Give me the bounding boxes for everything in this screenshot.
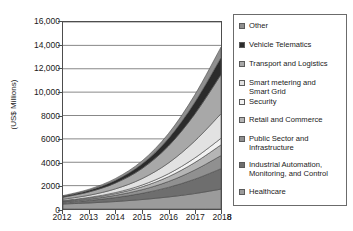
legend-item[interactable]: Industrial Automation, Monitoring, and C…	[239, 160, 343, 178]
chart-legend: OtherVehicle TelematicsTransport and Log…	[233, 14, 347, 206]
y-tick-label: 6000	[12, 135, 60, 144]
x-tick-mark	[142, 210, 143, 214]
page-number: 8	[227, 212, 232, 222]
area-bands	[63, 47, 221, 209]
legend-item-label: Vehicle Telematics	[249, 40, 311, 49]
area-series-group	[63, 22, 221, 209]
y-tick-mark	[58, 163, 62, 164]
y-tick-mark	[58, 186, 62, 187]
x-tick-mark	[89, 210, 90, 214]
chart-figure: (US$ Millions) 0200040006000800010,00012…	[0, 0, 353, 231]
legend-swatch-icon	[239, 23, 245, 29]
legend-swatch-icon	[239, 61, 245, 67]
legend-item-label: Retail and Commerce	[249, 115, 322, 124]
y-tick-label: 4000	[12, 158, 60, 167]
legend-swatch-icon	[239, 117, 245, 123]
legend-item-label: Transport and Logistics	[249, 59, 328, 68]
legend-item[interactable]: Retail and Commerce	[239, 115, 343, 124]
y-tick-label: 2000	[12, 182, 60, 191]
legend-swatch-icon	[239, 99, 245, 105]
y-tick-label: 10,000	[12, 87, 60, 96]
legend-swatch-icon	[239, 42, 245, 48]
y-tick-label: 16,000	[12, 17, 60, 26]
legend-item[interactable]: Other	[239, 21, 343, 30]
y-tick-mark	[58, 92, 62, 93]
y-tick-mark	[58, 139, 62, 140]
legend-swatch-icon	[239, 189, 245, 195]
legend-swatch-icon	[239, 80, 245, 86]
legend-item-label: Other	[249, 21, 268, 30]
legend-swatch-icon	[239, 136, 245, 142]
x-tick-mark	[169, 210, 170, 214]
legend-swatch-icon	[239, 162, 245, 168]
legend-item-label: Smart metering and Smart Grid	[249, 78, 316, 96]
legend-item-label: Security	[249, 97, 276, 106]
y-tick-label: 12,000	[12, 64, 60, 73]
legend-item-label: Healthcare	[249, 187, 286, 196]
y-axis-tick-labels: 0200040006000800010,00012,00014,00016,00…	[12, 15, 60, 215]
plot-area	[62, 21, 222, 210]
y-tick-label: 14,000	[12, 40, 60, 49]
stacked-area-chart: (US$ Millions) 0200040006000800010,00012…	[0, 0, 228, 231]
y-tick-mark	[58, 68, 62, 69]
y-tick-mark	[58, 45, 62, 46]
x-tick-mark	[221, 210, 222, 214]
legend-item[interactable]: Healthcare	[239, 187, 343, 196]
legend-item[interactable]: Vehicle Telematics	[239, 40, 343, 49]
legend-item[interactable]: Smart metering and Smart Grid	[239, 78, 343, 96]
y-tick-mark	[58, 116, 62, 117]
legend-item[interactable]: Transport and Logistics	[239, 59, 343, 68]
x-tick-mark	[115, 210, 116, 214]
legend-item[interactable]: Public Sector and Infrastructure	[239, 134, 343, 152]
x-tick-label: 2018	[207, 212, 237, 222]
y-tick-mark	[58, 21, 62, 22]
x-tick-mark	[195, 210, 196, 214]
legend-item[interactable]: Security	[239, 97, 343, 106]
legend-item-label: Industrial Automation, Monitoring, and C…	[249, 160, 328, 178]
x-axis-tick-labels: 2012201320142015201620172018	[62, 212, 222, 226]
y-tick-label: 8000	[12, 111, 60, 120]
x-tick-mark	[62, 210, 63, 214]
legend-item-label: Public Sector and Infrastructure	[249, 134, 309, 152]
